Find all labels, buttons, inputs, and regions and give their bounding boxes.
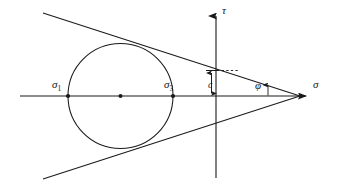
sigma-3-label-sub: 3 [169,84,173,93]
sigma-3-label: σ3 [164,79,173,93]
mohr-circle-figure: σ1 σ3 c φ τ σ [0,0,342,188]
sigma-1-label: σ1 [52,79,61,93]
sigma-1-point [66,94,70,98]
cohesion-label: c [208,80,212,90]
circle-center-point [119,94,123,98]
sigma-axis-label: σ [313,79,318,90]
sigma-3-point [171,94,175,98]
tau-axis-label: τ [222,5,226,16]
sigma-1-label-sub: 1 [57,84,61,93]
friction-angle-label: φ [255,80,261,91]
figure-canvas [0,0,342,188]
